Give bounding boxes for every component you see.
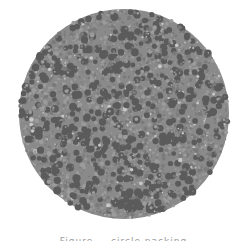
packed-circle [168,183,170,185]
packed-circle [116,175,123,182]
packed-circle [44,153,46,155]
packed-circle [96,131,98,133]
packed-circle [107,11,110,14]
packed-circle [157,149,159,151]
packed-circle [90,202,94,206]
packed-circle [155,107,159,111]
packed-circle [202,148,204,150]
packed-circle [203,82,205,84]
packed-circle [117,156,119,158]
packed-circle [97,88,99,90]
packed-circle [39,163,41,165]
packed-circle [175,93,177,95]
packed-circle [43,92,47,96]
packed-circle [189,121,191,123]
packed-circle [190,80,192,82]
packed-circle [197,160,199,162]
packed-circle [123,135,128,140]
packed-circle [106,175,108,177]
packed-circle [180,45,182,47]
packed-circle [155,182,157,184]
packed-circle [156,53,159,56]
packed-circle [64,62,66,64]
packed-circle [183,48,185,50]
packed-circle [121,108,124,111]
packed-circle [95,203,99,207]
packed-circle [74,24,80,30]
packed-circle [164,137,172,145]
packed-circle [208,143,210,145]
packed-circle [192,47,194,49]
packed-circle [112,154,115,157]
packed-circle [209,108,217,116]
packed-circle [66,174,68,176]
packed-circle [184,53,186,55]
packed-circle [108,26,110,28]
packed-circle [77,137,79,139]
packed-circle [206,113,208,115]
packed-circle [52,76,54,78]
packed-circle [35,118,40,123]
packed-circle [141,115,143,117]
packed-circle [122,122,124,124]
packed-circle [122,21,124,23]
packed-circle [112,116,117,121]
packed-circle [157,146,159,148]
packed-circle [83,114,85,116]
packed-circle [203,49,205,51]
packed-circle [90,42,92,44]
packed-circle [127,173,130,176]
packed-circle [29,92,32,95]
packed-circle [104,112,106,114]
packed-circle [149,70,152,73]
packed-circle [138,54,140,56]
packed-circle [198,72,205,79]
packed-circle [177,144,181,148]
packed-circle [136,164,138,166]
packed-circle [106,79,108,81]
packed-circle [124,41,126,43]
packed-circle [162,183,164,185]
packed-circle [144,173,148,177]
packed-circle [177,85,179,87]
packed-circle [173,80,176,83]
packed-circle [55,47,57,49]
packed-circle [208,77,210,79]
packed-circle [104,191,107,194]
packed-circle [55,133,62,140]
packed-circle [45,45,49,49]
packed-circle [35,117,37,119]
packed-circle [153,95,155,97]
packed-circle [163,198,166,201]
packed-circle [134,28,140,34]
packed-circle [128,75,130,77]
packed-circle [48,135,50,137]
packed-circle [129,26,131,28]
packed-circle [136,169,143,176]
packed-circle [109,99,113,103]
packed-circle [83,155,85,157]
packed-circle [33,138,35,140]
packed-circle [41,60,45,64]
packed-circle [62,111,64,113]
packed-circle [100,38,103,41]
packed-circle [120,186,124,190]
packed-circle [125,216,127,218]
packed-circle [68,51,72,55]
packed-circle [87,77,90,80]
packed-circle [184,77,186,79]
packed-circle [59,115,61,117]
packed-circle [208,74,210,76]
packed-circle [59,42,62,45]
packed-circle [62,118,65,121]
packed-circle [169,90,172,93]
packed-circle [93,137,100,144]
packed-circle [176,173,179,176]
packed-circle [45,137,48,140]
packed-circle [191,139,197,145]
packed-circle [190,163,193,166]
packed-circle [126,40,128,42]
packed-circle [163,21,165,23]
packed-circle [62,61,64,63]
packed-circle [132,19,134,21]
